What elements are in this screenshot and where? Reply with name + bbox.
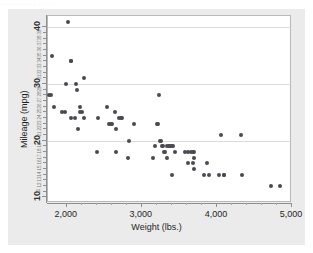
data-point [74, 82, 78, 86]
x-tick-major-3000 [141, 203, 142, 207]
data-point [191, 161, 195, 165]
data-point [222, 173, 226, 177]
data-point [105, 105, 109, 109]
data-point [159, 139, 163, 143]
data-point [64, 82, 68, 86]
data-point [76, 127, 80, 131]
data-point [173, 150, 177, 154]
data-point [114, 150, 118, 154]
plot-panel [47, 15, 291, 202]
x-tick-minor-3600 [186, 203, 187, 205]
x-tick-major-2000 [66, 203, 67, 207]
data-point [120, 116, 124, 120]
data-point [186, 161, 190, 165]
data-point [126, 156, 130, 160]
x-tick-minor-4600 [261, 203, 262, 205]
x-tick-minor-4800 [276, 203, 277, 205]
data-point [127, 139, 131, 143]
x-tick-minor-2200 [81, 203, 82, 205]
data-point [171, 144, 175, 148]
data-point [151, 156, 155, 160]
data-point [132, 122, 136, 126]
x-tick-label-5000: 5,000 [280, 209, 303, 219]
x-tick-minor-2800 [126, 203, 127, 205]
x-tick-label-3000: 3,000 [130, 209, 153, 219]
data-point [156, 122, 160, 126]
data-point [110, 122, 114, 126]
clipped-header-text: · · · · · · · · · · · · · [0, 0, 313, 9]
data-point [192, 150, 196, 154]
data-point [202, 173, 206, 177]
x-tick-minor-3800 [201, 203, 202, 205]
data-point [192, 156, 196, 160]
x-tick-major-4000 [216, 203, 217, 207]
data-point [69, 59, 73, 63]
data-point [82, 76, 86, 80]
x-tick-minor-2400 [96, 203, 97, 205]
data-point [78, 105, 82, 109]
data-point [269, 184, 273, 188]
data-point [153, 144, 157, 148]
y-axis-line [46, 15, 47, 203]
data-point [66, 20, 70, 24]
data-point [157, 93, 161, 97]
data-point [278, 184, 282, 188]
x-tick-minor-3400 [171, 203, 172, 205]
x-tick-label-4000: 4,000 [205, 209, 228, 219]
x-tick-minor-4400 [246, 203, 247, 205]
data-point [52, 105, 56, 109]
data-point [170, 173, 174, 177]
data-point [219, 133, 223, 137]
chart-figure: 1020304011121314151617181921222324252627… [8, 9, 305, 245]
x-tick-minor-3200 [156, 203, 157, 205]
data-point [49, 93, 53, 97]
scatter-plot-screenshot: · · · · · · · · · · · · · 10203040111213… [0, 0, 313, 253]
gridline-y-30 [48, 84, 290, 85]
data-point [161, 144, 165, 148]
data-point [73, 116, 77, 120]
y-axis-title-text: Mileage (mpg) [19, 90, 29, 148]
y-tick-label-text: 19 [34, 143, 44, 148]
data-point [82, 116, 86, 120]
data-point [240, 173, 244, 177]
data-point [50, 54, 54, 58]
x-tick-major-5000 [291, 203, 292, 207]
data-point [63, 110, 67, 114]
data-point [239, 133, 243, 137]
data-point [192, 167, 196, 171]
data-point [96, 116, 100, 120]
x-tick-minor-2600 [111, 203, 112, 205]
x-axis-line [47, 203, 292, 204]
data-point [207, 173, 211, 177]
data-point [114, 127, 118, 131]
data-point [205, 161, 209, 165]
x-tick-minor-4200 [231, 203, 232, 205]
y-tick-label-39: 39 [8, 27, 42, 37]
data-point [75, 88, 79, 92]
data-point [80, 110, 84, 114]
data-point [165, 156, 169, 160]
data-point [113, 110, 117, 114]
gridline-y-20 [48, 141, 290, 142]
data-point [163, 150, 167, 154]
data-point [217, 173, 221, 177]
y-tick-label-text: 39 [34, 29, 44, 34]
y-tick-label-text: 29 [34, 86, 44, 91]
gridline-y-40 [48, 27, 290, 28]
x-tick-label-2000: 2,000 [55, 209, 78, 219]
x-axis-title: Weight (lbs.) [8, 222, 305, 233]
data-point [95, 150, 99, 154]
